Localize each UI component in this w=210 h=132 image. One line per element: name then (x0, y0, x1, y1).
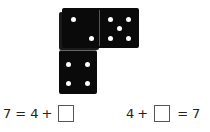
domino-horizontal (62, 8, 139, 48)
answer-box-2[interactable] (154, 105, 170, 122)
pip (89, 36, 94, 41)
equation-2: 4 + = 7 (126, 104, 200, 122)
equation-1: 7 = 4 + (3, 104, 77, 122)
domino-vertical (59, 50, 97, 94)
eq1-lhs: 7 (3, 106, 11, 121)
pip (108, 17, 113, 22)
domino-divider (99, 10, 100, 46)
eq1-addend: 4 (30, 106, 38, 121)
eq1-plus: + (41, 106, 52, 121)
eq2-equals: = (177, 106, 188, 121)
pip (85, 81, 90, 86)
pip (85, 62, 90, 67)
eq2-plus: + (137, 106, 148, 121)
pip (108, 36, 113, 41)
pip (66, 81, 71, 86)
pip (126, 17, 131, 22)
eq2-rhs: 7 (192, 106, 200, 121)
pip (66, 62, 71, 67)
pip (126, 36, 131, 41)
pip (117, 26, 122, 31)
eq1-equals: = (15, 106, 26, 121)
eq2-addend: 4 (126, 106, 134, 121)
answer-box-1[interactable] (58, 105, 74, 122)
pip (71, 17, 76, 22)
